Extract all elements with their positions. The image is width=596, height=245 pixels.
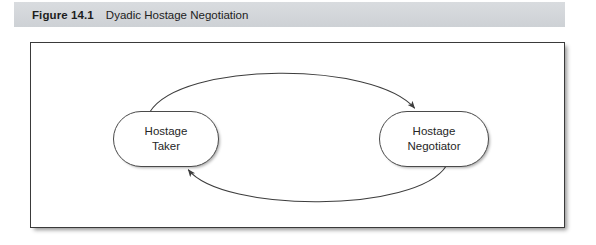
figure-caption-bar: Figure 14.1 Dyadic Hostage Negotiation [14, 2, 565, 27]
edge-taker-to-negotiator [150, 73, 415, 112]
node-label-line-2: Taker [152, 139, 180, 154]
diagram-node-hostage-negotiator: Hostage Negotiator [379, 111, 489, 167]
figure-number: Figure 14.1 [32, 9, 94, 21]
figure-diagram-frame: Hostage Taker Hostage Negotiator [30, 42, 565, 228]
edge-negotiator-to-taker [188, 166, 446, 202]
node-label-line-1: Hostage [413, 124, 456, 139]
node-label-line-1: Hostage [145, 124, 188, 139]
diagram-node-hostage-taker: Hostage Taker [113, 111, 219, 167]
figure-title: Dyadic Hostage Negotiation [106, 9, 249, 21]
node-label-line-2: Negotiator [407, 139, 460, 154]
